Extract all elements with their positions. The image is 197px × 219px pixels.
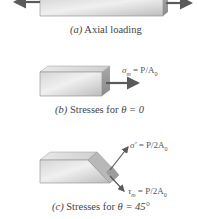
panel-b-normal-stress-label: σm = P/A0 <box>122 65 157 77</box>
caption-a: (a) Axial loading <box>70 24 142 35</box>
caption-b-theta: θ = 0 <box>121 104 144 115</box>
caption-b: (b) Stresses for θ = 0 <box>55 104 144 115</box>
caption-a-letter: (a) <box>70 24 82 35</box>
panel-c-normal-stress-label: σ′ = P/2A0 <box>130 140 168 152</box>
caption-c: (c) Stresses for θ = 45° <box>52 201 150 212</box>
panel-a-bar <box>40 0 168 16</box>
caption-b-letter: (b) <box>55 104 67 115</box>
panel-c-shear-stress-arrow <box>110 176 124 191</box>
caption-c-text: Stresses for <box>66 201 115 212</box>
panel-b-block <box>40 66 110 96</box>
panel-c-shear-stress-label: τm = P/2A0 <box>128 186 167 198</box>
caption-a-text: Axial loading <box>84 24 141 35</box>
caption-c-theta: θ = 45° <box>118 201 150 212</box>
panel-c-block <box>40 152 119 183</box>
caption-c-letter: (c) <box>52 201 64 212</box>
caption-b-text: Stresses for <box>70 104 119 115</box>
panel-c-normal-stress-arrow <box>110 147 128 170</box>
